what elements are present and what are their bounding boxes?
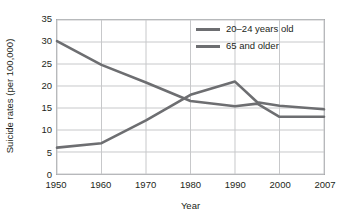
x-axis-title: Year <box>56 200 325 211</box>
x-tick-label: 1950 <box>36 179 76 190</box>
suicide-rates-line-chart: Suicide rates (per 100,000) 051015202530… <box>0 0 342 222</box>
legend-item-65-older: 65 and older <box>196 39 328 53</box>
x-tick-label: 2007 <box>305 179 342 190</box>
y-tick-label: 30 <box>16 36 52 46</box>
x-tick-label: 1960 <box>81 179 121 190</box>
legend-item-20-24: 20–24 years old <box>196 22 328 36</box>
y-tick-label: 10 <box>16 125 52 135</box>
y-tick-label: 35 <box>16 14 52 24</box>
x-axis-tick-labels: 1950196019701980199020002007 <box>0 179 342 193</box>
chart-legend: 20–24 years old 65 and older <box>196 20 328 52</box>
x-tick-label: 1980 <box>171 179 211 190</box>
y-axis-title-label: Suicide rates (per 100,000) <box>4 39 15 154</box>
legend-label-65-older: 65 and older <box>226 41 279 51</box>
y-tick-label: 15 <box>16 103 52 113</box>
x-tick-label: 2000 <box>260 179 300 190</box>
legend-swatch-icon <box>196 28 220 31</box>
x-tick-label: 1970 <box>126 179 166 190</box>
y-tick-label: 20 <box>16 81 52 91</box>
y-tick-label: 5 <box>16 148 52 158</box>
x-tick-label: 1990 <box>215 179 255 190</box>
y-tick-label: 25 <box>16 59 52 69</box>
legend-label-20-24: 20–24 years old <box>226 24 294 34</box>
legend-swatch-icon <box>196 45 220 48</box>
